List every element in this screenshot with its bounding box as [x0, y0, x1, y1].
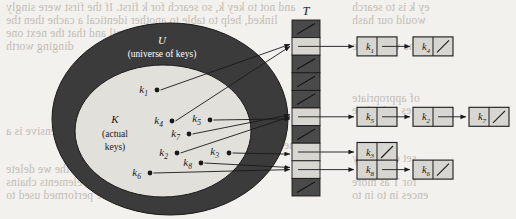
universe-sublabel: (universe of keys) — [128, 49, 197, 60]
key-subscript: 8 — [188, 162, 192, 171]
node-key-subscript: 1 — [371, 47, 375, 55]
key-dot-k1 — [155, 88, 160, 93]
key-subscript: 1 — [144, 89, 148, 98]
key-subscript: 6 — [137, 172, 141, 181]
key-subscript: 4 — [159, 120, 163, 129]
key-dot-k8 — [199, 161, 204, 166]
universe-label-U: U — [158, 34, 167, 46]
key-subscript: 3 — [214, 151, 219, 160]
actual-sublabel-line1: (actual — [102, 129, 128, 140]
actual-label-K: K — [110, 113, 119, 125]
key-dot-k6 — [148, 171, 153, 176]
figure-canvas: and not to key k, so search for k first.… — [0, 0, 516, 219]
key-dot-k4 — [170, 119, 175, 124]
node-key-subscript: 5 — [371, 117, 375, 125]
key-dot-k7 — [187, 132, 192, 137]
key-subscript: 7 — [176, 133, 180, 142]
key-dot-k5 — [208, 118, 213, 123]
key-dot-k3 — [227, 151, 232, 156]
chain-nodes: k1k4k5k2k7k3k8k6 — [298, 37, 509, 179]
node-key-subscript: 2 — [427, 117, 431, 125]
node-key-subscript: 4 — [427, 47, 431, 55]
key-subscript: 2 — [164, 152, 168, 161]
hash-table-chaining-diagram: k1k4k5k7k2k3k8k6 k1k4k5k2k7k3k8k6 TU(uni… — [0, 0, 516, 219]
node-key-subscript: 7 — [483, 117, 487, 125]
key-dot-k2 — [175, 151, 180, 156]
key-subscript: 5 — [197, 118, 201, 127]
node-key-subscript: 8 — [371, 170, 375, 178]
actual-sublabel-line2: keys) — [105, 142, 126, 153]
node-key-subscript: 3 — [370, 152, 375, 160]
table-label-T: T — [303, 4, 311, 18]
node-key-subscript: 6 — [427, 170, 431, 178]
